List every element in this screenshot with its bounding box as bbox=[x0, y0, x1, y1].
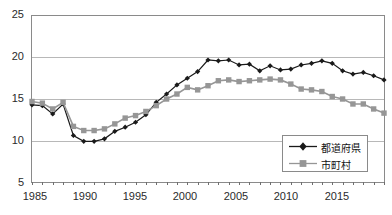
chart-figure: 25 20 15 10 5 1985 1990 1995 2000 2005 2… bbox=[0, 0, 392, 215]
gridline-15 bbox=[32, 99, 384, 100]
legend-label-prefecture: 都道府県 bbox=[321, 140, 361, 155]
x-tick-label: 2010 bbox=[266, 191, 306, 202]
y-tick-label: 10 bbox=[0, 135, 24, 146]
gridline-20 bbox=[32, 57, 384, 58]
x-tick-label: 2005 bbox=[216, 191, 256, 202]
legend: 都道府県 市町村 bbox=[282, 135, 368, 172]
x-tick-label: 2000 bbox=[165, 191, 205, 202]
y-tick-label: 15 bbox=[0, 93, 24, 104]
x-tick-label: 1990 bbox=[65, 191, 105, 202]
legend-marker-square-icon bbox=[288, 155, 318, 172]
x-tick-label: 1995 bbox=[115, 191, 155, 202]
y-tick-label: 25 bbox=[0, 9, 24, 20]
legend-label-municipality: 市町村 bbox=[321, 157, 351, 172]
x-tick-label: 1985 bbox=[15, 191, 55, 202]
x-tick-label: 2015 bbox=[317, 191, 357, 202]
legend-item-prefecture: 都道府県 bbox=[283, 138, 367, 155]
y-tick-label: 20 bbox=[0, 51, 24, 62]
y-tick-label: 5 bbox=[0, 177, 24, 188]
legend-marker-diamond-icon bbox=[288, 138, 318, 155]
chart-title-clipped bbox=[0, 0, 392, 6]
legend-item-municipality: 市町村 bbox=[283, 155, 367, 172]
